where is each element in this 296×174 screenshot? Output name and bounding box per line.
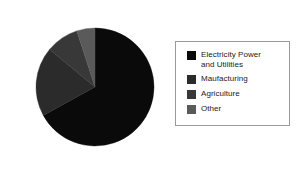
legend-item-electricity-power-and-utilities[interactable]: Electricity Power and Utilities — [187, 50, 283, 69]
legend-swatch-other — [187, 105, 196, 114]
legend-swatch-agriculture — [187, 90, 196, 99]
legend-item-other[interactable]: Other — [187, 104, 283, 114]
legend-label-other: Other — [201, 104, 221, 114]
legend-item-maufacturing[interactable]: Maufacturing — [187, 74, 283, 84]
legend-label-agriculture: Agriculture — [201, 89, 240, 99]
legend-item-agriculture[interactable]: Agriculture — [187, 89, 283, 99]
legend-swatch-maufacturing — [187, 75, 196, 84]
pie-slice-group — [36, 28, 154, 146]
pie-chart-svg — [35, 27, 155, 147]
legend-label-maufacturing: Maufacturing — [201, 74, 248, 84]
legend-swatch-electricity-power-and-utilities — [187, 51, 196, 60]
legend-label-electricity-power-and-utilities: Electricity Power and Utilities — [201, 50, 261, 69]
pie-chart-figure: Electricity Power and Utilities Maufactu… — [0, 0, 296, 174]
pie-chart-plot-area — [35, 27, 155, 147]
chart-legend: Electricity Power and Utilities Maufactu… — [175, 41, 290, 126]
